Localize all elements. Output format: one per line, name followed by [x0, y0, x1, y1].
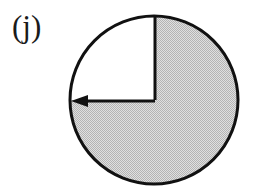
- circle-diagram: [0, 0, 259, 194]
- figure-panel: (j): [0, 0, 259, 194]
